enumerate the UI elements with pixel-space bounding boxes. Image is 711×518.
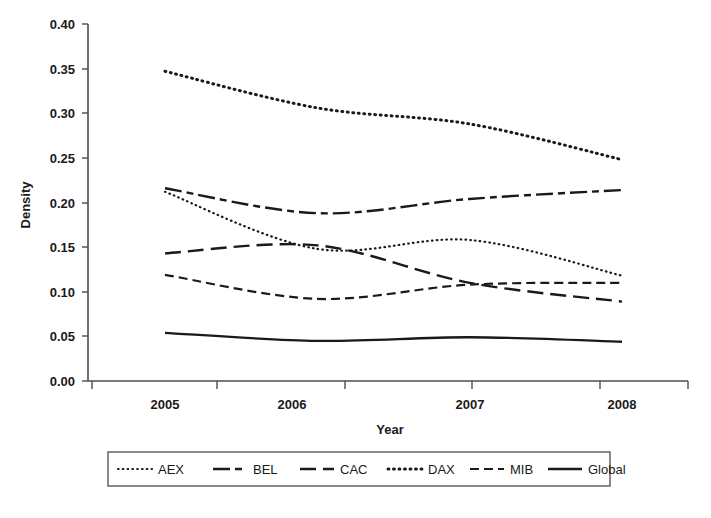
legend-item-cac[interactable]: CAC (300, 462, 367, 477)
y-tick-label-3: 0.15 (50, 240, 75, 255)
y-tick-label-8: 0.40 (50, 17, 75, 32)
series-line-dax (165, 71, 622, 159)
legend-label-bel: BEL (253, 462, 278, 477)
legend-item-aex[interactable]: AEX (118, 462, 184, 477)
axis-lines (88, 24, 688, 381)
y-tick-label-4: 0.20 (50, 196, 75, 211)
x-axis-ticks (92, 381, 688, 389)
x-tick-label-2008: 2008 (608, 397, 637, 412)
legend-entries: AEXBELCACDAXMIBGlobal (118, 462, 626, 477)
y-tick-label-6: 0.30 (50, 106, 75, 121)
x-tick-label-2007: 2007 (456, 397, 485, 412)
y-tick-label-2: 0.10 (50, 285, 75, 300)
y-axis-title: Density (18, 181, 33, 229)
x-tick-label-2006: 2006 (278, 397, 307, 412)
y-tick-label-0: 0.00 (50, 374, 75, 389)
density-by-year-line-chart: 0.00 0.05 0.10 0.15 0.20 0.25 0.30 0.35 … (0, 0, 711, 518)
legend-item-global[interactable]: Global (548, 462, 626, 477)
y-tick-label-1: 0.05 (50, 329, 75, 344)
legend-item-mib[interactable]: MIB (470, 462, 533, 477)
y-tick-label-7: 0.35 (50, 62, 75, 77)
legend-item-dax[interactable]: DAX (388, 462, 455, 477)
y-axis-ticks (82, 24, 88, 381)
legend: AEXBELCACDAXMIBGlobal (108, 452, 626, 486)
x-tick-labels: 2005 2006 2007 2008 (151, 397, 637, 412)
y-tick-label-5: 0.25 (50, 151, 75, 166)
legend-item-bel[interactable]: BEL (213, 462, 278, 477)
y-tick-labels: 0.00 0.05 0.10 0.15 0.20 0.25 0.30 0.35 … (50, 17, 75, 389)
data-series-layer (165, 71, 622, 341)
legend-label-aex: AEX (158, 462, 184, 477)
legend-label-dax: DAX (428, 462, 455, 477)
series-line-global (165, 333, 622, 342)
x-tick-label-2005: 2005 (151, 397, 180, 412)
series-line-bel (165, 188, 622, 213)
legend-label-global: Global (588, 462, 626, 477)
legend-label-mib: MIB (510, 462, 533, 477)
legend-label-cac: CAC (340, 462, 367, 477)
chart-canvas: 0.00 0.05 0.10 0.15 0.20 0.25 0.30 0.35 … (0, 0, 711, 518)
x-axis-title: Year (376, 422, 403, 437)
